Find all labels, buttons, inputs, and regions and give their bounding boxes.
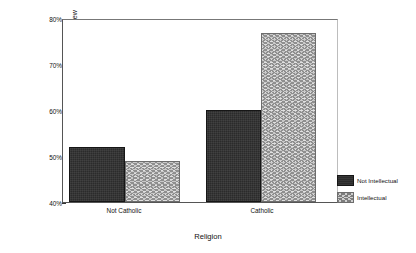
- plot-area: [62, 19, 338, 203]
- bar-not-catholic-not-intellectual: [69, 147, 125, 202]
- x-tick-label-not-catholic: Not Catholic: [107, 207, 142, 214]
- legend-label-not-intellectual: Not Intellectual: [357, 177, 398, 184]
- x-tick-label-catholic: Catholic: [250, 207, 273, 214]
- y-tick-label-40: 40%: [36, 200, 62, 207]
- y-tick-label-60: 60%: [36, 108, 62, 115]
- bar-not-catholic-intellectual: [125, 161, 180, 202]
- bar-catholic-not-intellectual: [206, 110, 261, 202]
- bar-chart: % High on Analogical World View 80% 70% …: [0, 0, 416, 253]
- y-tick-label-50: 50%: [36, 154, 62, 161]
- legend-label-intellectual: Intellectual: [357, 194, 387, 201]
- legend-entry-not-intellectual: Not Intellectual: [337, 172, 398, 189]
- zigzag-hatch-swatch-icon: [337, 192, 354, 203]
- legend-entry-intellectual: Intellectual: [337, 189, 398, 206]
- y-tick-label-70: 70%: [36, 62, 62, 69]
- solid-dark-swatch-icon: [337, 175, 354, 186]
- legend: Not Intellectual Intellectual: [337, 172, 398, 206]
- y-tick-mark-40: [62, 203, 66, 204]
- y-tick-label-80: 80%: [36, 16, 62, 23]
- y-axis: 80% 70% 60% 50% 40%: [30, 0, 62, 253]
- bar-catholic-intellectual: [261, 33, 316, 202]
- x-axis-title: Religion: [0, 232, 416, 241]
